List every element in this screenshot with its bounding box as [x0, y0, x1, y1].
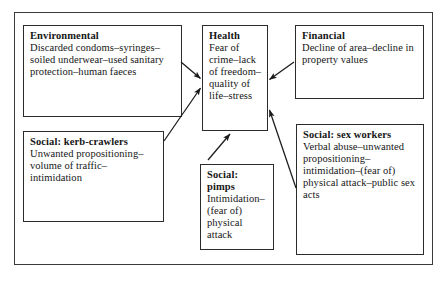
node-environmental: Environmental Discarded condoms–syringes…: [23, 25, 182, 117]
node-kerb-crawlers-body: Unwanted propositioning–volume of traffi…: [30, 148, 158, 184]
node-environmental-body: Discarded condoms–syringes–soiled underw…: [30, 42, 176, 78]
node-kerb-crawlers-title: Social: kerb-crawlers: [30, 136, 158, 148]
node-financial-body: Decline of area–decline in property valu…: [302, 42, 418, 66]
node-social-sex-workers: Social: sex workers Verbal abuse–unwante…: [296, 124, 424, 255]
node-pimps-body: Intimidation–(fear of) physical attack: [207, 193, 268, 241]
node-health: Health Fear of crime–lack of freedom–qua…: [202, 25, 268, 131]
node-financial: Financial Decline of area–decline in pro…: [295, 25, 424, 99]
node-social-kerb-crawlers: Social: kerb-crawlers Unwanted propositi…: [23, 131, 164, 222]
node-sex-workers-body: Verbal abuse–unwanted propositioning–int…: [303, 141, 418, 201]
node-pimps-title: Social: pimps: [207, 169, 268, 193]
diagram-canvas: Environmental Discarded condoms–syringes…: [0, 0, 448, 281]
node-environmental-title: Environmental: [30, 30, 176, 42]
node-health-title: Health: [209, 30, 262, 42]
node-social-pimps: Social: pimps Intimidation–(fear of) phy…: [200, 164, 274, 250]
node-health-body: Fear of crime–lack of freedom–quality of…: [209, 42, 262, 102]
node-financial-title: Financial: [302, 30, 418, 42]
node-sex-workers-title: Social: sex workers: [303, 129, 418, 141]
